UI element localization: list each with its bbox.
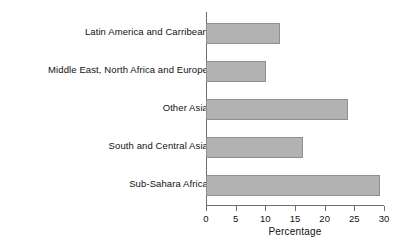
- x-tick-label-10: 10: [260, 213, 271, 224]
- x-tick-20: [325, 206, 326, 211]
- x-tick-25: [354, 206, 355, 211]
- x-tick-label-30: 30: [379, 213, 390, 224]
- bar-sub-sahara-africa: [206, 175, 380, 196]
- x-tick-15: [295, 206, 296, 211]
- x-tick-label-0: 0: [203, 213, 208, 224]
- bar-chart: Latin America and Carribean Middle East,…: [0, 0, 416, 248]
- category-label-middle-east: Middle East, North Africa and Europe: [48, 64, 208, 75]
- x-tick-label-5: 5: [233, 213, 238, 224]
- category-label-latin-america: Latin America and Carribean: [85, 26, 208, 37]
- x-tick-label-20: 20: [319, 213, 330, 224]
- x-tick-label-25: 25: [349, 213, 360, 224]
- category-label-sub-sahara-africa: Sub-Sahara Africa: [129, 178, 208, 189]
- bar-middle-east: [206, 61, 266, 82]
- x-tick-5: [236, 206, 237, 211]
- plot-area: 051015202530: [206, 12, 384, 205]
- bar-other-asia: [206, 99, 348, 120]
- x-axis-title: Percentage: [206, 226, 384, 237]
- x-tick-30: [384, 206, 385, 211]
- category-label-south-central-asia: South and Central Asia: [109, 140, 208, 151]
- category-label-other-asia: Other Asia: [163, 102, 208, 113]
- x-tick-10: [265, 206, 266, 211]
- bar-south-central-asia: [206, 137, 303, 158]
- bar-latin-america: [206, 23, 280, 44]
- x-tick-0: [206, 206, 207, 211]
- x-tick-label-15: 15: [290, 213, 301, 224]
